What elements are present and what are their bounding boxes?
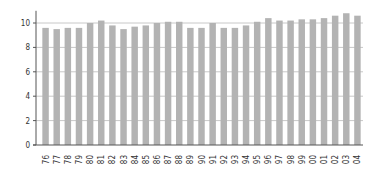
- x-tick-label: 82: [108, 155, 117, 164]
- x-tick-label: 95: [253, 155, 262, 164]
- y-tick-label: 6: [25, 68, 30, 77]
- bar-82: [109, 25, 115, 145]
- x-tick-label: 02: [331, 155, 340, 164]
- y-tick-label: 8: [25, 43, 30, 52]
- y-tick-label: 0: [25, 141, 30, 150]
- x-tick-label: 96: [264, 155, 273, 165]
- bar-76: [42, 28, 48, 145]
- x-tick-label: 93: [231, 155, 240, 164]
- x-tick-label: 00: [309, 155, 318, 165]
- x-tick-label: 94: [242, 155, 251, 165]
- bar-84: [131, 27, 137, 145]
- y-tick-label: 4: [25, 92, 30, 101]
- bar-95: [254, 22, 260, 145]
- bar-98: [287, 21, 293, 145]
- bar-87: [165, 22, 171, 145]
- bar-96: [265, 18, 271, 145]
- bar-81: [98, 21, 104, 145]
- x-tick-label: 89: [186, 155, 195, 165]
- bar-89: [187, 28, 193, 145]
- bar-97: [276, 21, 282, 145]
- x-tick-label: 76: [42, 155, 51, 165]
- bar-78: [65, 28, 71, 145]
- y-tick-label: 2: [25, 117, 30, 126]
- x-tick-label: 80: [86, 155, 95, 165]
- x-tick-label: 04: [353, 155, 362, 165]
- x-tick-label: 78: [64, 155, 73, 165]
- x-tick-label: 85: [142, 155, 151, 164]
- x-tick-label: 99: [298, 155, 307, 165]
- x-tick-label: 86: [153, 155, 162, 165]
- bar-77: [53, 29, 59, 145]
- bar-80: [87, 23, 93, 145]
- bar-91: [209, 23, 215, 145]
- bar-chart: 0246810 76777879808182838485868788899091…: [0, 0, 382, 177]
- x-tick-label: 77: [53, 155, 62, 164]
- bar-85: [143, 25, 149, 145]
- bar-02: [332, 16, 338, 145]
- bar-86: [154, 23, 160, 145]
- bar-04: [354, 16, 360, 145]
- x-tick-label: 90: [198, 155, 207, 165]
- x-tick-label: 01: [320, 155, 329, 164]
- x-tick-label: 81: [97, 155, 106, 164]
- bars: [42, 13, 360, 145]
- y-tick-labels: 0246810: [21, 19, 31, 150]
- bar-94: [243, 25, 249, 145]
- x-tick-label: 03: [342, 155, 351, 164]
- bar-93: [232, 28, 238, 145]
- x-tick-label: 88: [175, 155, 184, 165]
- bar-83: [120, 29, 126, 145]
- bar-92: [221, 28, 227, 145]
- bar-88: [176, 22, 182, 145]
- x-tick-label: 87: [164, 155, 173, 164]
- x-tick-label: 97: [275, 155, 284, 164]
- x-tick-label: 84: [131, 155, 140, 165]
- x-tick-label: 92: [220, 155, 229, 164]
- bar-99: [299, 19, 305, 145]
- bar-79: [76, 28, 82, 145]
- bar-03: [343, 13, 349, 145]
- bar-00: [310, 19, 316, 145]
- bar-01: [321, 18, 327, 145]
- bar-90: [198, 28, 204, 145]
- y-tick-label: 10: [21, 19, 31, 28]
- x-tick-label: 91: [209, 155, 218, 164]
- x-tick-label: 83: [120, 155, 129, 164]
- x-tick-label: 98: [287, 155, 296, 165]
- x-tick-labels: 7677787980818283848586878889909192939495…: [42, 155, 363, 165]
- x-tick-label: 79: [75, 155, 84, 165]
